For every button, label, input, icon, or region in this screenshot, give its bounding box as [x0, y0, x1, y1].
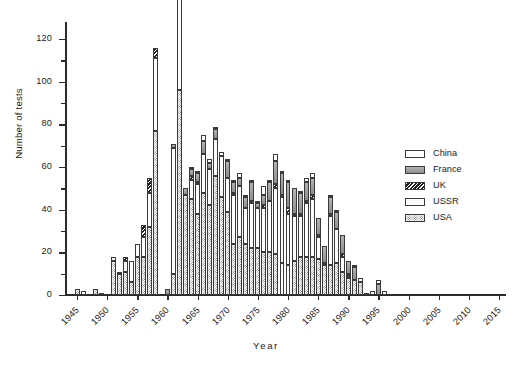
- bar-segment-ussr[interactable]: [328, 216, 333, 265]
- bar-segment-china[interactable]: [255, 201, 260, 203]
- bar-stack[interactable]: [280, 171, 285, 295]
- bar-segment-france[interactable]: [376, 284, 381, 295]
- bar-segment-ussr[interactable]: [334, 229, 339, 263]
- bar-stack[interactable]: [310, 173, 315, 295]
- bar-segment-france[interactable]: [352, 267, 357, 280]
- bar-segment-france[interactable]: [261, 195, 266, 206]
- bar-segment-ussr[interactable]: [225, 178, 230, 212]
- bar-segment-ussr[interactable]: [207, 169, 212, 205]
- bar-segment-uk[interactable]: [117, 272, 122, 274]
- legend-item-china[interactable]: China: [405, 146, 515, 162]
- legend-item-france[interactable]: France: [405, 162, 515, 178]
- bar-segment-usa[interactable]: [75, 289, 80, 295]
- bar-segment-usa[interactable]: [322, 265, 327, 295]
- bar-segment-france[interactable]: [231, 182, 236, 193]
- bar-segment-france[interactable]: [249, 182, 254, 201]
- bar-segment-ussr[interactable]: [255, 208, 260, 249]
- bar-segment-france[interactable]: [195, 173, 200, 182]
- bar-segment-ussr[interactable]: [141, 237, 146, 256]
- bar-segment-china[interactable]: [243, 195, 248, 197]
- bar-segment-usa[interactable]: [255, 248, 260, 295]
- bar-segment-china[interactable]: [273, 154, 278, 160]
- bar-segment-china[interactable]: [267, 180, 272, 182]
- bar-segment-france[interactable]: [280, 173, 285, 194]
- bar-segment-france[interactable]: [286, 182, 291, 208]
- bar-segment-ussr[interactable]: [135, 244, 140, 257]
- bar-segment-uk[interactable]: [346, 274, 351, 276]
- bar-segment-ussr[interactable]: [340, 257, 345, 272]
- bar-segment-usa[interactable]: [153, 131, 158, 295]
- bar-segment-france[interactable]: [273, 161, 278, 184]
- bar-segment-china[interactable]: [370, 291, 375, 295]
- bar-segment-china[interactable]: [304, 178, 309, 182]
- bar-segment-uk[interactable]: [195, 182, 200, 184]
- bar-segment-ussr[interactable]: [213, 139, 218, 175]
- bar-segment-ussr[interactable]: [237, 186, 242, 237]
- bar-segment-usa[interactable]: [129, 282, 134, 295]
- bar-segment-france[interactable]: [340, 235, 345, 254]
- bar-segment-usa[interactable]: [111, 261, 116, 295]
- bar-segment-usa[interactable]: [213, 176, 218, 295]
- bar-stack[interactable]: [195, 171, 200, 295]
- bar-segment-ussr[interactable]: [171, 148, 176, 274]
- bar-segment-china[interactable]: [280, 171, 285, 173]
- bar-segment-china[interactable]: [195, 171, 200, 173]
- bar-segment-usa[interactable]: [292, 261, 297, 295]
- bar-segment-china[interactable]: [358, 278, 363, 282]
- legend-item-ussr[interactable]: USSR: [405, 194, 515, 210]
- bar-segment-usa[interactable]: [81, 291, 86, 295]
- bar-segment-usa[interactable]: [231, 244, 236, 295]
- bar-segment-usa[interactable]: [237, 237, 242, 295]
- bar-segment-usa[interactable]: [177, 90, 182, 295]
- bar-segment-ussr[interactable]: [123, 261, 128, 272]
- bar-stack[interactable]: [237, 173, 242, 295]
- bar-segment-ussr[interactable]: [243, 208, 248, 244]
- bar-segment-usa[interactable]: [280, 263, 285, 295]
- bar-segment-usa[interactable]: [225, 212, 230, 295]
- bar-stack[interactable]: [273, 154, 278, 295]
- bar-stack[interactable]: [171, 144, 176, 295]
- bar-stack[interactable]: [267, 180, 272, 295]
- bar-segment-uk[interactable]: [328, 214, 333, 216]
- bar-segment-ussr[interactable]: [292, 216, 297, 261]
- bar-stack[interactable]: [322, 246, 327, 295]
- bar-segment-ussr[interactable]: [286, 214, 291, 265]
- bar-stack[interactable]: [141, 225, 146, 295]
- bar-segment-uk[interactable]: [141, 225, 146, 238]
- bar-stack[interactable]: [382, 291, 387, 295]
- bar-segment-ussr[interactable]: [195, 184, 200, 214]
- bar-segment-ussr[interactable]: [129, 261, 134, 282]
- bar-segment-usa[interactable]: [328, 265, 333, 295]
- bar-segment-usa[interactable]: [195, 214, 200, 295]
- bar-stack[interactable]: [201, 135, 206, 295]
- bar-stack[interactable]: [249, 180, 254, 295]
- bar-segment-usa[interactable]: [183, 195, 188, 295]
- bar-segment-ussr[interactable]: [111, 257, 116, 261]
- bar-stack[interactable]: [99, 293, 104, 295]
- bar-segment-uk[interactable]: [147, 178, 152, 193]
- bar-segment-usa[interactable]: [207, 205, 212, 295]
- bar-stack[interactable]: [129, 261, 134, 295]
- bar-segment-france[interactable]: [334, 212, 339, 229]
- bar-stack[interactable]: [81, 291, 86, 295]
- bar-segment-china[interactable]: [207, 159, 212, 163]
- bar-stack[interactable]: [189, 167, 194, 295]
- bar-stack[interactable]: [364, 293, 369, 295]
- bar-segment-uk[interactable]: [286, 208, 291, 214]
- bar-segment-france[interactable]: [316, 218, 321, 235]
- bar-segment-france[interactable]: [171, 144, 176, 148]
- bar-stack[interactable]: [147, 178, 152, 295]
- bar-segment-ussr[interactable]: [99, 293, 104, 295]
- bar-segment-uk[interactable]: [153, 48, 158, 59]
- bar-segment-france[interactable]: [165, 289, 170, 295]
- bar-segment-china[interactable]: [298, 191, 303, 193]
- bar-segment-ussr[interactable]: [316, 237, 321, 258]
- bar-segment-china[interactable]: [231, 180, 236, 182]
- bar-segment-france[interactable]: [189, 169, 194, 175]
- bar-stack[interactable]: [286, 180, 291, 295]
- bar-segment-france[interactable]: [298, 193, 303, 214]
- bar-stack[interactable]: [316, 218, 321, 295]
- bar-stack[interactable]: [165, 289, 170, 295]
- bar-segment-france[interactable]: [328, 197, 333, 214]
- bar-segment-usa[interactable]: [123, 272, 128, 295]
